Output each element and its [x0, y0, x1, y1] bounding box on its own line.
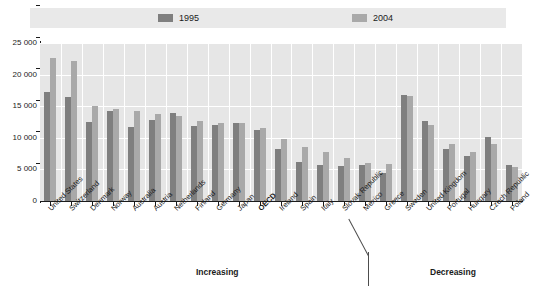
- bar-2004: [134, 111, 140, 201]
- bar-2004: [113, 109, 119, 201]
- y-axis-labels: 05 00010 00015 00020 00025 000: [0, 38, 37, 208]
- bar-2004: [260, 128, 266, 201]
- gridline-vertical: [354, 43, 355, 201]
- y-tick-label: 15 000: [0, 102, 37, 110]
- bar-group: [422, 43, 434, 201]
- chart-legend: 1995 2004: [30, 8, 506, 28]
- bar-2004: [176, 116, 182, 201]
- gridline-vertical: [417, 43, 418, 201]
- bar-group: [212, 43, 224, 201]
- bar-2004: [428, 125, 434, 201]
- legend-swatch-1995: [158, 14, 173, 22]
- gridline-vertical: [501, 43, 502, 201]
- gridline-vertical: [145, 43, 146, 201]
- bar-2004: [344, 158, 350, 201]
- bar-group: [338, 43, 350, 201]
- bar-group: [149, 43, 161, 201]
- gridline-vertical: [291, 43, 292, 201]
- bar-2004: [407, 96, 413, 201]
- gridline-vertical: [82, 43, 83, 201]
- y-tick-mark: [36, 37, 40, 38]
- y-tick-mark: [36, 5, 40, 6]
- y-tick-label: 10 000: [0, 134, 37, 142]
- gridline-vertical: [208, 43, 209, 201]
- section-label-increasing: Increasing: [196, 268, 239, 277]
- bar-group: [86, 43, 98, 201]
- bar-group: [128, 43, 140, 201]
- bar-group: [233, 43, 245, 201]
- legend-swatch-2004: [352, 14, 367, 22]
- bar-group: [296, 43, 308, 201]
- gridline-vertical: [103, 43, 104, 201]
- gridline-vertical: [271, 43, 272, 201]
- bar-2004: [50, 58, 56, 201]
- bar-group: [317, 43, 329, 201]
- bar-group: [401, 43, 413, 201]
- bar-group: [254, 43, 266, 201]
- bar-2004: [323, 152, 329, 201]
- bar-2004: [386, 164, 392, 201]
- gridline-vertical: [61, 43, 62, 201]
- section-label-decreasing: Decreasing: [430, 268, 476, 277]
- bar-group: [275, 43, 287, 201]
- gridline-vertical: [396, 43, 397, 201]
- legend-label-2004: 2004: [373, 14, 393, 23]
- legend-item-2004: 2004: [352, 8, 393, 28]
- bar-group: [44, 43, 56, 201]
- x-axis-labels: United StatesSwitzerlandDenmarkNorwayAus…: [0, 203, 535, 263]
- gridline-vertical: [250, 43, 251, 201]
- legend-label-1995: 1995: [179, 14, 199, 23]
- gridline-vertical: [124, 43, 125, 201]
- bar-group: [107, 43, 119, 201]
- gridline-vertical: [480, 43, 481, 201]
- gridline-vertical: [333, 43, 334, 201]
- bar-group: [170, 43, 182, 201]
- y-tick-label: 20 000: [0, 71, 37, 79]
- section-divider: [368, 252, 369, 286]
- y-tick-label: 25 000: [0, 39, 37, 47]
- gridline-vertical: [229, 43, 230, 201]
- bar-2004: [302, 147, 308, 201]
- plot-area: [40, 43, 522, 201]
- bar-group: [485, 43, 497, 201]
- bar-2004: [218, 123, 224, 201]
- bar-2004: [155, 114, 161, 201]
- gridline-vertical: [438, 43, 439, 201]
- gridline-vertical: [312, 43, 313, 201]
- gridline-vertical: [166, 43, 167, 201]
- legend-item-1995: 1995: [158, 8, 199, 28]
- y-tick-label: 5 000: [0, 165, 37, 173]
- gridline-vertical: [187, 43, 188, 201]
- bar-2004: [281, 139, 287, 201]
